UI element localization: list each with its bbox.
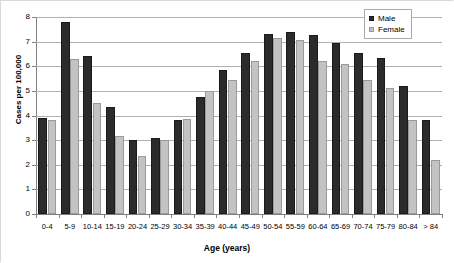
x-axis-tick-mark xyxy=(36,214,37,218)
x-axis-tick-label: 40-44 xyxy=(216,222,239,231)
x-axis-tick-label: 55-59 xyxy=(284,222,307,231)
bar-female-3539[interactable] xyxy=(205,91,214,214)
bar-group xyxy=(149,17,172,214)
bar-female-3034[interactable] xyxy=(183,119,192,214)
y-axis-tick-label: 5 xyxy=(6,87,30,95)
bar-female-04[interactable] xyxy=(48,120,57,214)
bar-male-04[interactable] xyxy=(38,118,47,214)
y-axis-tick-label: 2 xyxy=(6,161,30,169)
x-axis-tick-mark xyxy=(329,214,330,218)
x-axis-tick-label: 20-24 xyxy=(126,222,149,231)
y-axis-tick-mark xyxy=(32,165,36,166)
female-swatch-icon xyxy=(369,27,374,32)
bar-female-1519[interactable] xyxy=(115,136,124,214)
bar-female-5054[interactable] xyxy=(273,38,282,214)
bar-female-5559[interactable] xyxy=(296,40,305,214)
x-axis-tick-mark xyxy=(194,214,195,218)
bar-group xyxy=(262,17,285,214)
y-axis-tick-mark xyxy=(32,42,36,43)
bar-group xyxy=(397,17,420,214)
bar-female-4549[interactable] xyxy=(251,61,260,214)
x-axis-tick-label: 30-34 xyxy=(171,222,194,231)
x-axis-tick-mark xyxy=(104,214,105,218)
bar-female-6064[interactable] xyxy=(318,61,327,214)
bar-male-4044[interactable] xyxy=(219,70,228,214)
bar-female-8084[interactable] xyxy=(408,120,417,214)
plot-area xyxy=(36,17,442,214)
y-axis-tick-label: 0 xyxy=(6,210,30,218)
x-axis-tick-label: 65-69 xyxy=(329,222,352,231)
x-axis-tick-mark xyxy=(59,214,60,218)
y-axis-tick-label: 3 xyxy=(6,136,30,144)
x-axis-tick-label: 10-14 xyxy=(81,222,104,231)
bar-male-2024[interactable] xyxy=(129,140,138,214)
y-axis-tick-mark xyxy=(32,91,36,92)
bar-female-7579[interactable] xyxy=(386,88,395,214)
y-axis-tick-label: 7 xyxy=(6,38,30,46)
bar-male-59[interactable] xyxy=(61,22,70,214)
bar-group xyxy=(307,17,330,214)
bar-male-5559[interactable] xyxy=(286,32,295,214)
bar-male-5054[interactable] xyxy=(264,34,273,214)
x-axis-tick-mark xyxy=(397,214,398,218)
bar-male-2529[interactable] xyxy=(151,138,160,214)
x-axis-tick-mark xyxy=(374,214,375,218)
bar-male-3034[interactable] xyxy=(174,120,183,214)
bar-group xyxy=(284,17,307,214)
bar-female-6569[interactable] xyxy=(341,64,350,214)
y-axis-tick-mark xyxy=(32,116,36,117)
y-axis-tick-mark xyxy=(32,189,36,190)
bar-female-1014[interactable] xyxy=(93,103,102,214)
x-axis-tick-label: 80-84 xyxy=(397,222,420,231)
x-axis-tick-mark xyxy=(419,214,420,218)
bar-female-4044[interactable] xyxy=(228,80,237,214)
y-axis-tick-label: 8 xyxy=(6,13,30,21)
male-swatch-icon xyxy=(369,16,374,21)
bar-female-84[interactable] xyxy=(431,160,440,214)
bar-male-7579[interactable] xyxy=(377,58,386,214)
bar-male-7074[interactable] xyxy=(354,53,363,214)
x-axis-tick-label: 50-54 xyxy=(262,222,285,231)
x-axis-tick-label: 45-49 xyxy=(239,222,262,231)
x-axis-tick-label: 75-79 xyxy=(374,222,397,231)
bar-female-2529[interactable] xyxy=(160,140,169,214)
bar-male-84[interactable] xyxy=(422,120,431,214)
x-axis-tick-label: 5-9 xyxy=(59,222,82,231)
bar-group xyxy=(239,17,262,214)
bar-male-1519[interactable] xyxy=(106,107,115,214)
chart-figure: Cases per 100,000 876543210 Age (years) … xyxy=(0,0,454,263)
y-axis-tick-label: 6 xyxy=(6,62,30,70)
legend-label-female: Female xyxy=(378,25,405,34)
x-axis-tick-mark xyxy=(149,214,150,218)
x-axis-tick-label: 25-29 xyxy=(149,222,172,231)
x-axis-tick-mark xyxy=(171,214,172,218)
bar-male-6569[interactable] xyxy=(332,43,341,214)
bar-male-8084[interactable] xyxy=(399,86,408,214)
bar-female-2024[interactable] xyxy=(138,156,147,214)
y-axis-tick-mark xyxy=(32,140,36,141)
legend-item-female[interactable]: Female xyxy=(369,24,405,35)
x-axis-tick-mark xyxy=(126,214,127,218)
bar-group xyxy=(194,17,217,214)
x-axis-title: Age (years) xyxy=(0,243,454,253)
bar-male-1014[interactable] xyxy=(83,56,92,214)
x-axis-tick-label: > 84 xyxy=(419,222,442,231)
bar-male-3539[interactable] xyxy=(196,97,205,214)
y-axis-tick-label: 4 xyxy=(6,112,30,120)
x-axis-tick-mark xyxy=(262,214,263,218)
bar-group xyxy=(352,17,375,214)
x-axis-tick-label: 60-64 xyxy=(307,222,330,231)
x-axis-tick-mark xyxy=(284,214,285,218)
x-axis-tick-mark xyxy=(352,214,353,218)
bar-male-6064[interactable] xyxy=(309,35,318,214)
y-axis-tick-mark xyxy=(32,66,36,67)
bar-female-59[interactable] xyxy=(70,59,79,214)
bar-group xyxy=(104,17,127,214)
x-axis-tick-mark xyxy=(216,214,217,218)
bar-female-7074[interactable] xyxy=(363,80,372,214)
bar-group xyxy=(374,17,397,214)
bar-group xyxy=(36,17,59,214)
legend-label-male: Male xyxy=(378,14,395,23)
bar-male-4549[interactable] xyxy=(241,53,250,214)
legend-item-male[interactable]: Male xyxy=(369,13,405,24)
